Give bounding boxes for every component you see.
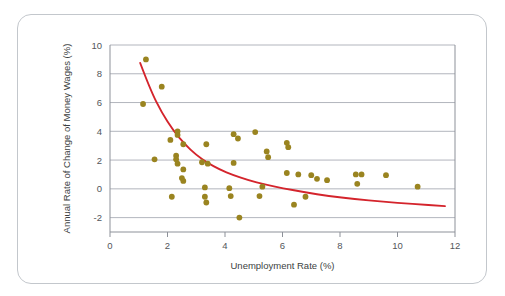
y-tick-label-6: 6: [97, 97, 102, 108]
x-axis-title: Unemployment Rate (%): [230, 260, 334, 271]
x-tick-marks: [110, 232, 455, 237]
scatter-point: [353, 172, 359, 178]
scatter-point: [159, 84, 165, 90]
x-tick-label-10: 10: [392, 240, 403, 251]
y-tick-label-2: 2: [97, 155, 102, 166]
scatter-point: [167, 137, 173, 143]
y-tick-label-8: 8: [97, 68, 102, 79]
scatter-point: [359, 172, 365, 178]
y-tick-label-0: 0: [97, 183, 102, 194]
scatter-point: [252, 129, 258, 135]
scatter-point: [314, 176, 320, 182]
x-tick-labels: 024681012: [107, 240, 460, 251]
y-tick-labels: -20246810: [91, 40, 102, 224]
scatter-point: [303, 194, 309, 200]
scatter-point: [169, 194, 175, 200]
x-tick-label-0: 0: [107, 240, 112, 251]
gridlines-group: [110, 45, 455, 218]
y-axis-title: Annual Rate of Change of Money Wages (%): [61, 44, 72, 234]
scatter-point: [205, 161, 211, 167]
scatter-point: [202, 185, 208, 191]
scatter-point: [140, 101, 146, 107]
scatter-point: [284, 170, 290, 176]
scatter-point: [257, 193, 263, 199]
scatter-point: [354, 181, 360, 187]
scatter-point: [180, 178, 186, 184]
y-tick-label-4: 4: [97, 126, 102, 137]
scatter-point: [236, 215, 242, 221]
scatter-point: [175, 161, 181, 167]
scatter-point: [324, 177, 330, 183]
scatter-point: [226, 185, 232, 191]
y-tick-label--2: -2: [94, 212, 102, 223]
fitted-curve: [140, 63, 445, 206]
x-tick-label-4: 4: [222, 240, 227, 251]
x-tick-label-6: 6: [280, 240, 285, 251]
scatter-point: [231, 160, 237, 166]
x-tick-label-2: 2: [165, 240, 170, 251]
scatter-point: [231, 131, 237, 137]
scatter-point: [143, 56, 149, 62]
y-tick-label-10: 10: [91, 40, 102, 51]
scatter-point: [152, 156, 158, 162]
scatter-point: [265, 154, 271, 160]
x-tick-label-8: 8: [337, 240, 342, 251]
scatter-point: [202, 194, 208, 200]
scatter-point: [228, 193, 234, 199]
scatter-point: [235, 136, 241, 142]
scatter-point: [180, 141, 186, 147]
scatter-point: [415, 184, 421, 190]
scatter-point: [264, 149, 270, 155]
scatter-point: [203, 200, 209, 206]
figure-container: -20246810 024681012 Unemployment Rate (%…: [0, 0, 505, 296]
scatter-point: [199, 159, 205, 165]
scatter-point: [285, 144, 291, 150]
x-tick-label-12: 12: [450, 240, 461, 251]
scatter-point: [180, 167, 186, 173]
scatter-point: [175, 132, 181, 138]
scatter-points-group: [140, 56, 420, 220]
scatter-point: [203, 141, 209, 147]
scatter-point: [308, 172, 314, 178]
scatter-point: [291, 202, 297, 208]
scatter-point: [259, 184, 265, 190]
scatter-point: [383, 172, 389, 178]
scatter-point: [295, 172, 301, 178]
phillips-curve-chart: -20246810 024681012 Unemployment Rate (%…: [0, 0, 505, 296]
